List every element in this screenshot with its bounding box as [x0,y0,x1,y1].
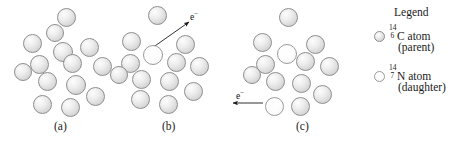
legend-role-parent: (parent) [398,41,434,53]
isotope-notation-nitrogen: 14 7 [389,69,397,80]
panel-b-label: (b) [162,120,175,132]
legend-swatch-daughter-atom-icon [374,71,385,82]
parent-atom [23,34,42,53]
parent-atom [176,35,195,54]
legend-role-daughter: (daughter) [398,81,446,93]
parent-atom [148,6,167,25]
parent-atom [14,63,32,81]
panel-a-label: (a) [54,120,67,132]
atomic-number-carbon: 6 [391,32,395,40]
parent-atom [66,75,86,95]
parent-atom [243,66,261,84]
daughter-atom [277,44,297,64]
parent-atom [190,57,209,76]
parent-atom [86,87,105,106]
parent-atom [279,8,298,27]
legend-title: Legend [394,6,428,18]
parent-atom [184,82,203,101]
panel-c-label: (c) [296,120,309,132]
parent-atom [57,8,76,27]
parent-atom [132,70,151,89]
parent-atom [306,35,325,54]
legend: Legend 14 6 C atom (parent) 14 7 N atom … [372,6,468,126]
parent-atom [292,74,311,93]
parent-atom [46,24,64,42]
parent-atom [80,38,99,57]
parent-atom [159,95,178,114]
parent-atom [33,95,52,114]
parent-atom [320,57,339,76]
parent-atom [61,98,80,117]
parent-atom [291,97,310,116]
atomic-number-nitrogen: 7 [391,72,395,80]
electron-label-b: e− [190,10,198,22]
parent-atom [131,90,150,109]
parent-atom [38,72,57,91]
daughter-atom [143,45,163,65]
electron-label-c: e− [236,89,244,101]
parent-atom [253,33,272,52]
parent-atom [122,32,141,51]
parent-atom [160,72,179,91]
parent-atom [167,53,186,72]
parent-atom [266,72,285,91]
legend-swatch-parent-atom-icon [374,31,385,42]
parent-atom [63,54,82,73]
parent-atom [313,85,332,104]
isotope-notation-carbon: 14 6 [389,29,397,40]
radioactive-decay-figure: (a) (b)e− (c)e− Legend 14 6 C atom (pare… [0,0,468,141]
parent-atom [296,52,315,71]
daughter-atom [265,97,284,116]
parent-atom [110,66,128,84]
